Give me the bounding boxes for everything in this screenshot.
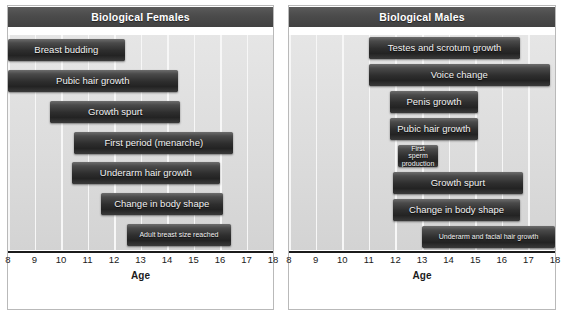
x-tick-label-17: 17 — [241, 254, 252, 265]
bar-change-in-body-shape: Change in body shape — [101, 193, 223, 215]
bar-breast-budding: Breast budding — [8, 39, 125, 61]
panel-biological-females: Biological Females Breast buddingPubic h… — [0, 0, 281, 314]
x-tick-label-8: 8 — [5, 254, 10, 265]
bar-row: Underarm and facial hair growth — [289, 226, 555, 248]
x-tick-label-15: 15 — [188, 254, 199, 265]
x-tick-label-10: 10 — [56, 254, 67, 265]
x-tick-label-17: 17 — [523, 254, 534, 265]
x-tick-label-10: 10 — [337, 254, 348, 265]
x-tick-label-13: 13 — [417, 254, 428, 265]
bar-first-sperm-production: First sperm production — [398, 145, 438, 167]
chart-title-males: Biological Males — [289, 7, 555, 27]
x-tick-label-15: 15 — [470, 254, 481, 265]
x-tick-label-11: 11 — [83, 254, 93, 265]
x-tick-label-8: 8 — [286, 254, 291, 265]
bar-row: Change in body shape — [289, 199, 555, 221]
bar-testes-and-scrotum-growth: Testes and scrotum growth — [369, 37, 521, 59]
bar-growth-spurt: Growth spurt — [50, 101, 180, 123]
bar-row: Testes and scrotum growth — [289, 37, 555, 59]
x-tick-label-9: 9 — [313, 254, 318, 265]
plot-area-females: Breast buddingPubic hair growthGrowth sp… — [8, 35, 273, 250]
bars-females: Breast buddingPubic hair growthGrowth sp… — [8, 35, 273, 250]
x-tick-label-16: 16 — [215, 254, 226, 265]
x-tick-label-13: 13 — [135, 254, 146, 265]
x-tick-label-12: 12 — [109, 254, 120, 265]
plot-area-males: Testes and scrotum growthVoice changePen… — [289, 35, 555, 250]
bar-row: Breast budding — [8, 39, 273, 61]
bar-row: Growth spurt — [289, 172, 555, 194]
bar-pubic-hair-growth: Pubic hair growth — [390, 118, 478, 140]
bar-row: Penis growth — [289, 91, 555, 113]
bar-first-period-menarche: First period (menarche) — [74, 132, 233, 154]
x-tick-label-12: 12 — [390, 254, 401, 265]
x-tick-label-11: 11 — [364, 254, 374, 265]
bar-voice-change: Voice change — [369, 64, 550, 86]
x-axis-title-females: Age — [8, 270, 273, 281]
x-tick-label-14: 14 — [162, 254, 173, 265]
bar-row: Underarm hair growth — [8, 162, 273, 184]
puberty-timeline-figure: Biological Females Breast buddingPubic h… — [0, 0, 563, 314]
x-axis-ticks-males: 89101112131415161718 — [289, 253, 555, 268]
x-tick-label-18: 18 — [550, 254, 561, 265]
x-axis-title-males: Age — [289, 270, 555, 281]
x-tick-label-14: 14 — [443, 254, 454, 265]
bar-row: Adult breast size reached — [8, 224, 273, 246]
x-tick-label-16: 16 — [497, 254, 508, 265]
panel-biological-males: Biological Males Testes and scrotum grow… — [281, 0, 563, 314]
bar-row: Change in body shape — [8, 193, 273, 215]
x-tick-label-18: 18 — [268, 254, 279, 265]
bar-row: Voice change — [289, 64, 555, 86]
bar-row: Pubic hair growth — [289, 118, 555, 140]
bar-row: Growth spurt — [8, 101, 273, 123]
bar-pubic-hair-growth: Pubic hair growth — [8, 70, 178, 92]
x-axis-ticks-females: 89101112131415161718 — [8, 253, 273, 268]
bar-penis-growth: Penis growth — [390, 91, 478, 113]
bar-underarm-hair-growth: Underarm hair growth — [72, 162, 220, 184]
bar-row: Pubic hair growth — [8, 70, 273, 92]
x-tick-label-9: 9 — [32, 254, 37, 265]
bar-adult-breast-size-reached: Adult breast size reached — [127, 224, 230, 246]
chart-title-females: Biological Females — [8, 7, 273, 27]
bar-underarm-and-facial-hair-growth: Underarm and facial hair growth — [422, 226, 555, 248]
bar-change-in-body-shape: Change in body shape — [393, 199, 521, 221]
bar-row: First sperm production — [289, 145, 555, 167]
bar-growth-spurt: Growth spurt — [393, 172, 523, 194]
bar-row: First period (menarche) — [8, 132, 273, 154]
bars-males: Testes and scrotum growthVoice changePen… — [289, 35, 555, 250]
